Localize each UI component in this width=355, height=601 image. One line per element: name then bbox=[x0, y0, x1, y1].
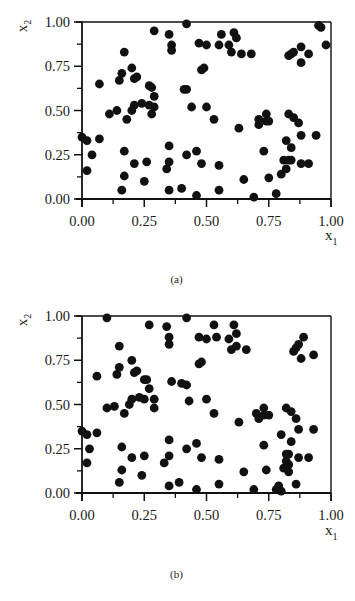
data-point-marker bbox=[239, 175, 248, 184]
data-point-marker bbox=[88, 150, 97, 159]
data-point-marker bbox=[195, 333, 204, 342]
data-point-marker bbox=[242, 345, 251, 354]
data-point-marker bbox=[93, 428, 102, 437]
y-tick-label: 0.00 bbox=[45, 191, 70, 207]
data-point-marker bbox=[83, 459, 92, 468]
data-point-marker bbox=[132, 73, 141, 82]
data-point-marker bbox=[247, 50, 256, 59]
data-point-marker bbox=[165, 482, 174, 491]
data-point-marker bbox=[217, 30, 226, 39]
x-tick-label: 0.25 bbox=[132, 507, 157, 523]
figure: 0.000.000.250.250.500.500.750.751.001.00… bbox=[0, 0, 355, 601]
x-tick-label: 0.50 bbox=[194, 213, 219, 229]
data-point-marker bbox=[264, 117, 273, 126]
data-point-marker bbox=[259, 441, 268, 450]
data-point-marker bbox=[113, 370, 122, 379]
scatter-panel-b: 0.000.000.250.250.500.500.750.751.001.00… bbox=[14, 308, 344, 581]
data-point-marker bbox=[83, 430, 92, 439]
data-point-marker bbox=[277, 487, 286, 496]
data-point-marker bbox=[150, 404, 159, 413]
y-tick-label: 0.75 bbox=[45, 58, 70, 74]
data-point-marker bbox=[130, 101, 139, 110]
data-point-marker bbox=[103, 404, 112, 413]
data-point-marker bbox=[294, 119, 303, 128]
y-axis-title: x2 bbox=[14, 20, 33, 33]
data-point-marker bbox=[140, 451, 149, 460]
data-point-marker bbox=[182, 150, 191, 159]
data-point-marker bbox=[292, 480, 301, 489]
data-point-marker bbox=[137, 99, 146, 108]
data-point-marker bbox=[120, 409, 129, 418]
data-point-marker bbox=[232, 342, 241, 351]
data-point-marker bbox=[127, 453, 136, 462]
data-point-marker bbox=[195, 359, 204, 368]
data-point-marker bbox=[127, 64, 136, 73]
data-point-marker bbox=[239, 467, 248, 476]
data-point-marker bbox=[122, 115, 131, 124]
y-tick-label: 0.50 bbox=[45, 103, 70, 119]
data-point-marker bbox=[105, 110, 114, 119]
data-point-marker bbox=[292, 414, 301, 423]
y-tick-label: 0.75 bbox=[45, 352, 70, 368]
data-point-marker bbox=[297, 131, 306, 140]
data-point-marker bbox=[309, 425, 318, 434]
data-point-marker bbox=[185, 397, 194, 406]
data-point-marker bbox=[145, 321, 154, 330]
data-point-marker bbox=[165, 157, 174, 166]
data-point-marker bbox=[115, 342, 124, 351]
data-point-marker bbox=[282, 165, 291, 174]
scatter-panel-a: 0.000.000.250.250.500.500.750.751.001.00… bbox=[14, 14, 344, 286]
data-point-marker bbox=[120, 172, 129, 181]
data-point-marker bbox=[289, 48, 298, 57]
data-point-marker bbox=[140, 395, 149, 404]
data-point-marker bbox=[262, 466, 271, 475]
data-point-marker bbox=[287, 143, 296, 152]
data-point-marker bbox=[287, 156, 296, 165]
data-point-marker bbox=[264, 411, 273, 420]
data-point-marker bbox=[165, 451, 174, 460]
data-point-marker bbox=[235, 124, 244, 133]
data-point-marker bbox=[142, 157, 151, 166]
data-point-marker bbox=[215, 161, 224, 170]
data-point-marker bbox=[294, 425, 303, 434]
data-point-marker bbox=[215, 41, 224, 50]
data-point-marker bbox=[317, 23, 326, 32]
y-tick-label: 0.25 bbox=[45, 147, 70, 163]
data-point-marker bbox=[147, 83, 156, 92]
y-tick-label: 1.00 bbox=[45, 14, 70, 30]
x-tick-label: 1.00 bbox=[318, 507, 343, 523]
data-point-marker bbox=[312, 131, 321, 140]
data-points bbox=[78, 19, 331, 201]
data-point-marker bbox=[215, 186, 224, 195]
data-point-marker bbox=[202, 103, 211, 112]
data-point-marker bbox=[210, 115, 219, 124]
data-point-marker bbox=[297, 42, 306, 51]
data-point-marker bbox=[85, 444, 94, 453]
data-point-marker bbox=[287, 407, 296, 416]
data-point-marker bbox=[93, 372, 102, 381]
data-point-marker bbox=[127, 395, 136, 404]
x-tick-label: 0.25 bbox=[132, 213, 157, 229]
data-point-marker bbox=[150, 26, 159, 35]
data-point-marker bbox=[120, 147, 129, 156]
data-point-marker bbox=[227, 48, 236, 57]
data-point-marker bbox=[117, 186, 126, 195]
data-point-marker bbox=[215, 455, 224, 464]
data-point-marker bbox=[117, 466, 126, 475]
x-tick-label: 0.75 bbox=[256, 213, 281, 229]
data-point-marker bbox=[287, 437, 296, 446]
data-point-marker bbox=[165, 436, 174, 445]
y-tick-label: 1.00 bbox=[45, 308, 70, 324]
data-point-marker bbox=[297, 58, 306, 67]
data-point-marker bbox=[113, 106, 122, 115]
data-point-marker bbox=[200, 64, 209, 73]
x-tick-label: 0.00 bbox=[69, 213, 94, 229]
data-point-marker bbox=[232, 329, 241, 338]
data-point-marker bbox=[165, 340, 174, 349]
data-point-marker bbox=[212, 333, 221, 342]
data-point-marker bbox=[197, 159, 206, 168]
panel-caption: (b) bbox=[170, 568, 183, 581]
data-point-marker bbox=[197, 453, 206, 462]
x-axis-title: x1 bbox=[325, 227, 338, 247]
data-point-marker bbox=[175, 478, 184, 487]
